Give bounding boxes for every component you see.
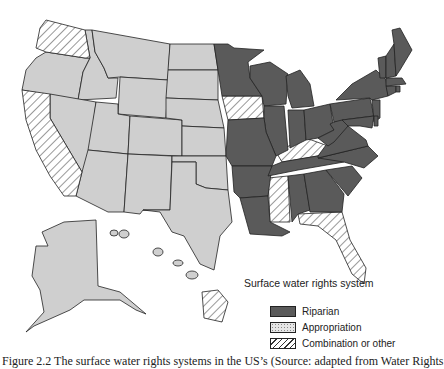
legend-item-combination: Combination or other [270,335,432,351]
riparian-swatch [270,306,296,317]
state-NM [124,154,172,214]
legend-title: Surface water rights system [244,277,432,289]
state-CT [386,86,396,96]
riparian-states [214,28,412,236]
state-MA [386,78,406,86]
state-WY [118,77,168,118]
legend: Surface water rights system Riparian App… [244,277,432,351]
figure-caption: Figure 2.2 The surface water rights syst… [2,354,444,369]
state-RI [396,86,400,92]
legend-item-riparian: Riparian [270,303,432,319]
state-DE [374,116,378,126]
state-MI [286,70,314,108]
state-CO [128,116,182,156]
state-FL [298,212,366,284]
state-SD [166,70,218,100]
state-ND [168,44,218,70]
combination-swatch [270,338,296,349]
state-KS [182,126,226,156]
state-WA [36,20,90,58]
appropriation-swatch [270,322,296,333]
legend-item-appropriation: Appropriation [270,319,432,335]
legend-label: Riparian [302,306,339,317]
state-HI [202,290,228,322]
state-MS [268,176,290,222]
legend-label: Combination or other [302,338,395,349]
state-AR [232,166,272,198]
legend-label: Appropriation [302,322,361,333]
state-IA [222,96,264,120]
